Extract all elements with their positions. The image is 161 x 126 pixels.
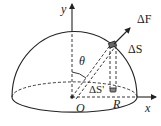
area-element-label: ΔS [128, 42, 142, 56]
hemisphere-arc [12, 31, 137, 97]
theta-label: θ [79, 54, 85, 68]
diagram-canvas: y x O R θ ΔF ΔS ΔS' [0, 0, 161, 126]
x-axis-label: x [144, 101, 151, 115]
theta-arc [72, 72, 86, 78]
hemisphere-diagram: y x O R θ ΔF ΔS ΔS' [0, 0, 161, 126]
y-axis-label: y [60, 2, 67, 16]
projected-area-label: ΔS' [89, 83, 104, 95]
radius-label: R [112, 97, 121, 111]
force-label: ΔF [137, 12, 152, 26]
origin-label: O [76, 101, 85, 115]
delta-s-prime-patch [110, 88, 116, 92]
base-ellipse-back [12, 82, 137, 97]
